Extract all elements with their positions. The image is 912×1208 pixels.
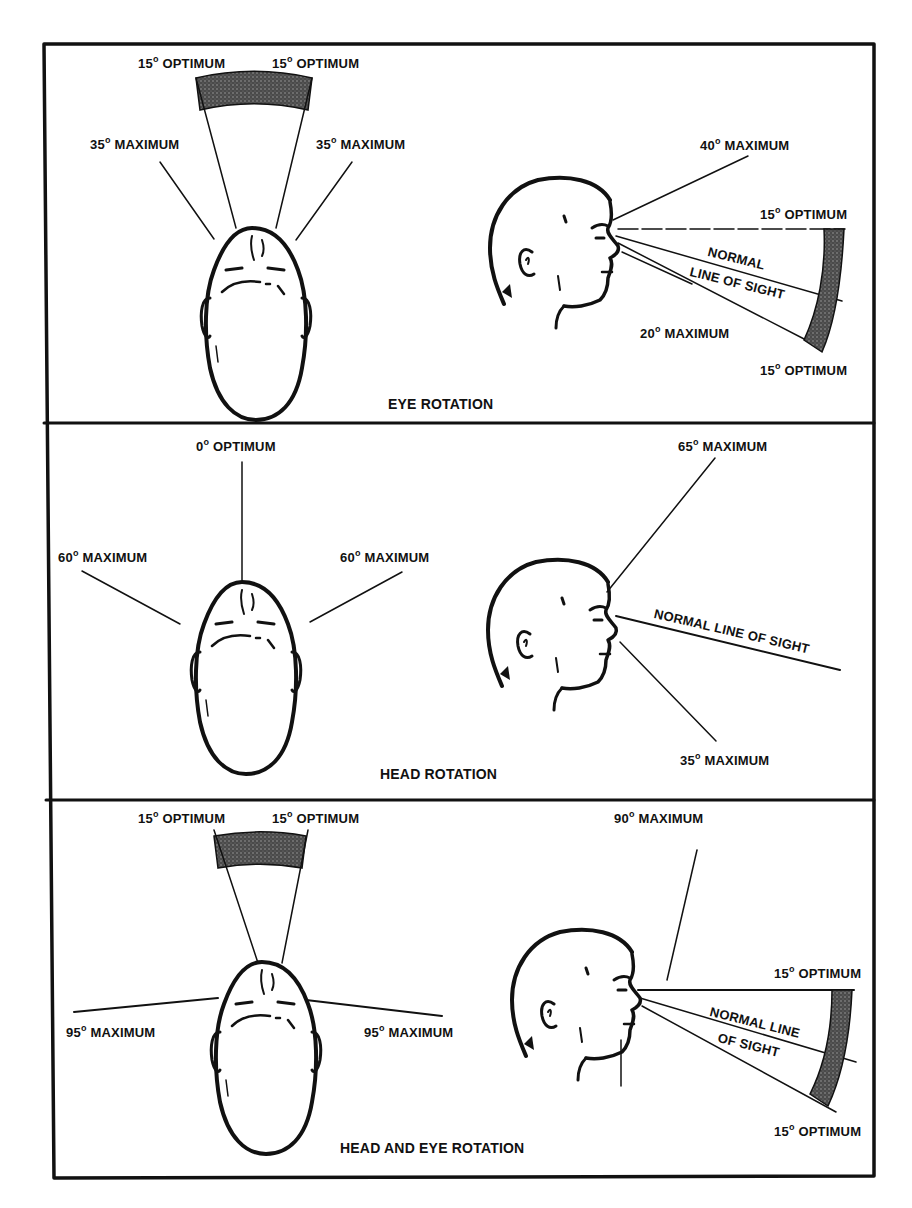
label-right-maximum: 60o MAXIMUM	[340, 549, 429, 565]
label-left-optimum: 15o OPTIMUM	[138, 55, 225, 71]
label-down-optimum: 15o OPTIMUM	[774, 1123, 861, 1139]
label-right-maximum: 35o MAXIMUM	[316, 136, 405, 152]
label-center-optimum: 0o OPTIMUM	[196, 438, 276, 454]
figure-frame	[44, 44, 874, 1178]
label-up-optimum: 15o OPTIMUM	[774, 965, 861, 981]
panel-title-eye-rotation: EYE ROTATION	[388, 396, 493, 412]
panel-title-head-rotation: HEAD ROTATION	[380, 766, 497, 782]
head-eye-rotation-top-view	[74, 830, 442, 1154]
panel-title-head-and-eye-rotation: HEAD AND EYE ROTATION	[340, 1140, 524, 1156]
vision-rotation-diagram: 15o OPTIMUM 15o OPTIMUM 35o MAXIMUM 35o …	[0, 0, 912, 1208]
head-rotation-side-view	[488, 458, 840, 741]
label-right-optimum: 15o OPTIMUM	[272, 55, 359, 71]
label-down-maximum: 35o MAXIMUM	[680, 752, 769, 768]
eye-rotation-top-view	[160, 71, 352, 420]
label-down-optimum: 15o OPTIMUM	[760, 362, 847, 378]
label-right-optimum: 15o OPTIMUM	[272, 810, 359, 826]
label-down-maximum: 20o MAXIMUM	[640, 325, 729, 341]
label-up-maximum: 65o MAXIMUM	[678, 438, 767, 454]
label-up-maximum: 40o MAXIMUM	[700, 137, 789, 153]
head-rotation-top-view	[82, 462, 402, 774]
label-left-optimum: 15o OPTIMUM	[138, 810, 225, 826]
label-left-maximum: 60o MAXIMUM	[58, 549, 147, 565]
label-left-maximum: 95o MAXIMUM	[66, 1024, 155, 1040]
eye-rotation-side-view	[490, 156, 845, 352]
label-up-maximum: 90o MAXIMUM	[614, 810, 703, 826]
label-left-maximum: 35o MAXIMUM	[90, 136, 179, 152]
label-right-maximum: 95o MAXIMUM	[364, 1024, 453, 1040]
label-up-optimum: 15o OPTIMUM	[760, 206, 847, 222]
